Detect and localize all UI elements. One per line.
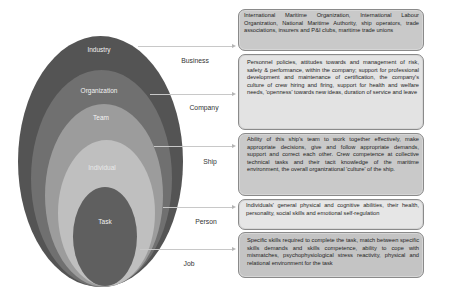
connector-person bbox=[163, 207, 233, 208]
connector-job bbox=[140, 249, 233, 250]
level-person: Person bbox=[195, 218, 217, 225]
team-label: Team bbox=[93, 114, 109, 121]
arrowhead-person bbox=[232, 205, 236, 209]
connector-ship bbox=[154, 146, 233, 147]
connector-business bbox=[138, 46, 233, 47]
level-company: Company bbox=[189, 104, 218, 111]
description-box-person: Individuals' general physical and cognit… bbox=[238, 199, 424, 230]
level-business: Business bbox=[181, 57, 209, 64]
arrowhead-ship bbox=[232, 144, 236, 148]
connector-company bbox=[150, 94, 233, 95]
description-box-ship: Ability of this ship's team to work toge… bbox=[238, 133, 424, 196]
description-box-job: Specific skills required to complete the… bbox=[238, 232, 424, 278]
task-ellipse bbox=[73, 187, 137, 286]
level-job: Job bbox=[184, 260, 195, 267]
industry-label: Industry bbox=[87, 46, 110, 53]
organization-label: Organization bbox=[81, 87, 118, 94]
arrowhead-company bbox=[232, 92, 236, 96]
individual-label: Individual bbox=[88, 164, 115, 171]
description-box-business: International Maritime Organization, Int… bbox=[238, 9, 424, 51]
arrowhead-business bbox=[232, 44, 236, 48]
description-box-company: Personnel policies, attitudes towards an… bbox=[238, 54, 424, 130]
task-label: Task bbox=[98, 218, 111, 225]
arrowhead-job bbox=[232, 247, 236, 251]
level-ship: Ship bbox=[203, 158, 217, 165]
